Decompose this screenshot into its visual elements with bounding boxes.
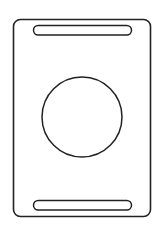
top-slot: [34, 26, 132, 36]
card-diagram: [0, 0, 165, 228]
bottom-slot: [34, 201, 132, 211]
center-circle: [42, 77, 122, 157]
